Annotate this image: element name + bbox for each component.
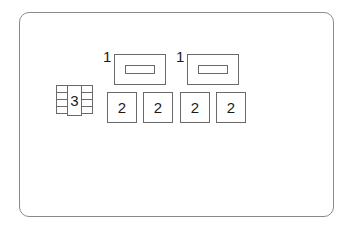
connector-3-right-pins [81,85,93,116]
relay-1b-slot [198,65,228,74]
connector-3-label: 3 [67,85,82,116]
fuse-2b: 2 [143,92,173,123]
connector-3: 3 [56,85,93,116]
fuse-2c: 2 [180,92,210,123]
relay-1b-label: 1 [176,49,184,64]
fuse-2a: 2 [107,92,137,123]
relay-1a-slot [125,65,155,74]
relay-1b [187,54,239,85]
fuse-2d: 2 [216,92,246,123]
relay-1a-label: 1 [103,49,111,64]
relay-1a [114,54,166,85]
